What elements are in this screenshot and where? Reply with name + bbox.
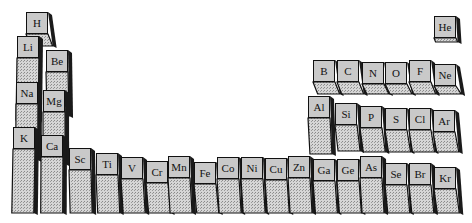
- column-O: [385, 84, 412, 94]
- element-tile-c: C: [337, 60, 359, 82]
- column-C: [337, 82, 364, 94]
- column-Fe: [194, 184, 219, 213]
- column-As: [360, 178, 384, 213]
- element-tile-cl: Cl: [409, 108, 431, 130]
- column-He: [434, 38, 458, 42]
- element-tile-n: N: [362, 62, 384, 84]
- column-Sc: [69, 170, 92, 213]
- column-Zn: [288, 178, 312, 213]
- column-Si: [335, 125, 360, 151]
- column-B: [313, 82, 340, 94]
- element-tile-ne: Ne: [434, 64, 456, 86]
- column-K: [12, 149, 35, 213]
- element-tile-fe: Fe: [194, 162, 216, 184]
- column-Ga: [313, 181, 337, 213]
- column-Cr: [146, 183, 171, 213]
- column-Ne: [434, 86, 461, 94]
- column-N: [362, 84, 389, 94]
- column-V: [121, 179, 145, 213]
- element-tile-v: V: [121, 157, 143, 179]
- element-tile-zn: Zn: [288, 156, 310, 178]
- element-tile-cu: Cu: [265, 158, 287, 180]
- column-Kr: [434, 189, 459, 213]
- element-tile-ar: Ar: [433, 110, 455, 132]
- element-tile-ni: Ni: [241, 157, 263, 179]
- column-Cl: [409, 130, 435, 152]
- element-tile-ga: Ga: [313, 159, 335, 181]
- element-tile-ca: Ca: [41, 135, 63, 157]
- element-tile-mn: Mn: [168, 156, 190, 178]
- element-tile-si: Si: [335, 103, 357, 125]
- column-Mn: [168, 178, 192, 213]
- element-tile-br: Br: [409, 163, 431, 185]
- column-S: [385, 130, 411, 152]
- column-Ca: [41, 157, 63, 213]
- element-tile-ti: Ti: [96, 153, 118, 175]
- element-tile-kr: Kr: [434, 167, 456, 189]
- element-tile-b: B: [313, 60, 335, 82]
- element-tile-s: S: [385, 108, 407, 130]
- column-Ni: [241, 179, 265, 213]
- element-tile-al: Al: [308, 96, 330, 118]
- column-F: [409, 82, 436, 94]
- element-tile-mg: Mg: [43, 90, 65, 112]
- element-tile-sc: Sc: [69, 148, 91, 170]
- element-tile-o: O: [385, 62, 407, 84]
- element-tile-be: Be: [46, 50, 68, 72]
- element-tile-co: Co: [217, 157, 239, 179]
- column-Br: [409, 185, 434, 213]
- element-tile-cr: Cr: [146, 161, 168, 183]
- element-tile-f: F: [409, 60, 431, 82]
- element-tile-he: He: [434, 16, 456, 38]
- column-Ti: [96, 175, 120, 213]
- column-P: [360, 128, 385, 152]
- element-tile-as: As: [360, 156, 382, 178]
- column-Ar: [433, 132, 459, 152]
- element-tile-h: H: [26, 12, 48, 34]
- column-Co: [217, 179, 241, 213]
- periodic-3d-chart: HHeLiBeBCNOFNeNaMgAlSiPSClArKCaScTiVCrMn…: [0, 0, 472, 223]
- element-tile-li: Li: [17, 36, 39, 58]
- element-tile-se: Se: [385, 163, 407, 185]
- column-Cu: [265, 180, 289, 213]
- element-tile-p: P: [360, 106, 382, 128]
- column-Al: [308, 118, 332, 154]
- element-tile-k: K: [13, 127, 35, 149]
- element-tile-ge: Ge: [337, 159, 359, 181]
- column-Ge: [337, 181, 361, 213]
- element-tile-na: Na: [16, 82, 38, 104]
- column-side-Ca: [63, 135, 67, 215]
- column-Se: [385, 185, 410, 213]
